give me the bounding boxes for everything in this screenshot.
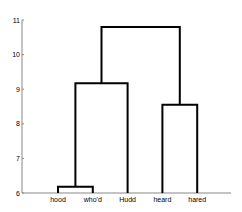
dendrogram-chart: 67891011 hoodwho'dHuddheardhared bbox=[0, 0, 242, 212]
y-tick-label: 6 bbox=[16, 190, 20, 197]
dendrogram-links bbox=[58, 27, 197, 193]
dendrogram-link-heard-hared bbox=[162, 105, 197, 193]
leaf-label: hood bbox=[50, 196, 66, 203]
leaf-label: heard bbox=[153, 196, 171, 203]
leaf-label: Hudd bbox=[119, 196, 136, 203]
leaf-label: who'd bbox=[83, 196, 102, 203]
y-tick-label: 10 bbox=[12, 51, 20, 58]
y-tick-label: 11 bbox=[13, 17, 20, 24]
leaf-label: hared bbox=[188, 196, 206, 203]
dendrogram-link-root bbox=[102, 27, 180, 105]
y-tick-label: 8 bbox=[16, 120, 20, 127]
dendrogram-link-hood-whod-hudd bbox=[75, 83, 127, 193]
axes bbox=[22, 20, 231, 193]
dendrogram-link-hood-whod bbox=[58, 187, 93, 193]
y-tick-label: 9 bbox=[16, 86, 20, 93]
y-tick-label: 7 bbox=[16, 155, 20, 162]
leaf-labels: hoodwho'dHuddheardhared bbox=[50, 196, 206, 203]
